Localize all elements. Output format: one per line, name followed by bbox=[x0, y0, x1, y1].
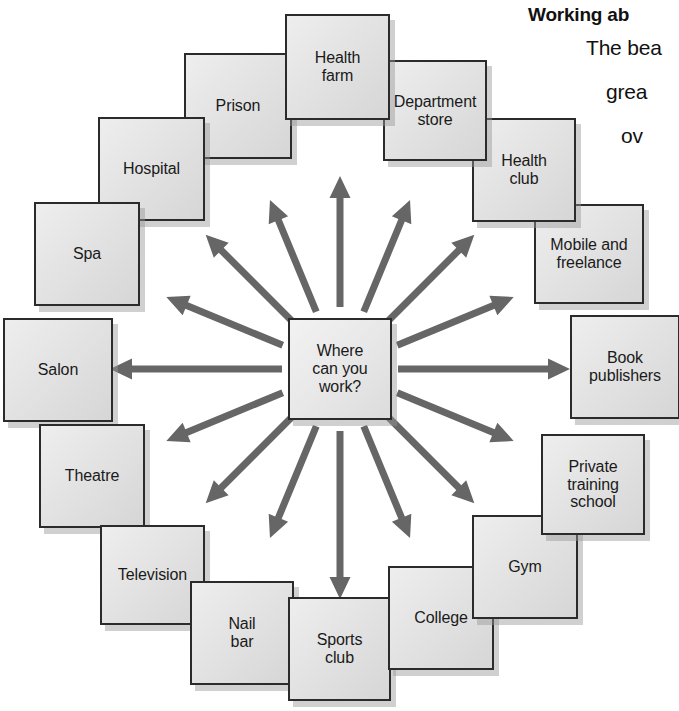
node-label: Theatre bbox=[65, 467, 119, 485]
center-node[interactable]: Where can you work? bbox=[288, 318, 392, 420]
side-body-line-3: ov bbox=[621, 124, 643, 148]
side-body-line-2: grea bbox=[606, 80, 647, 104]
node-label: College bbox=[414, 609, 468, 627]
diagram-canvas: Health farmDepartment storeHealth clubMo… bbox=[0, 0, 679, 711]
radial-arrow bbox=[166, 296, 284, 349]
node-salon[interactable]: Salon bbox=[3, 318, 113, 422]
radial-arrow bbox=[269, 425, 320, 538]
radial-arrow bbox=[330, 176, 351, 307]
node-label: Private training school bbox=[567, 458, 619, 512]
node-label: Hospital bbox=[123, 160, 180, 178]
node-label: Book publishers bbox=[589, 349, 661, 385]
radial-arrow bbox=[396, 296, 514, 349]
side-heading: Working ab bbox=[528, 4, 629, 26]
radial-arrow bbox=[386, 235, 475, 324]
node-label: Department store bbox=[394, 93, 477, 129]
node-label: Mobile and freelance bbox=[550, 236, 627, 272]
radial-arrow bbox=[206, 235, 295, 324]
node-label: Where can you work? bbox=[312, 342, 367, 396]
node-nail-bar[interactable]: Nail bar bbox=[190, 581, 294, 685]
node-label: Gym bbox=[508, 558, 541, 576]
node-theatre[interactable]: Theatre bbox=[39, 424, 145, 528]
node-department-store[interactable]: Department store bbox=[383, 60, 487, 161]
node-label: Health farm bbox=[315, 49, 361, 85]
radial-arrow bbox=[206, 415, 295, 504]
radial-arrow bbox=[110, 359, 282, 380]
side-body-line-1: The bea bbox=[586, 36, 662, 60]
node-label: Television bbox=[118, 566, 187, 584]
radial-arrow bbox=[360, 425, 411, 538]
node-label: Salon bbox=[38, 361, 78, 379]
node-private-training-school[interactable]: Private training school bbox=[541, 434, 645, 535]
node-book-publishers[interactable]: Book publishers bbox=[570, 315, 679, 419]
radial-arrow bbox=[269, 200, 320, 313]
node-label: Health club bbox=[501, 152, 547, 188]
node-spa[interactable]: Spa bbox=[34, 202, 140, 306]
node-health-club[interactable]: Health club bbox=[472, 118, 576, 222]
radial-arrow bbox=[386, 415, 475, 504]
radial-arrow bbox=[398, 359, 570, 380]
node-label: Prison bbox=[216, 97, 261, 115]
node-health-farm[interactable]: Health farm bbox=[285, 14, 390, 120]
node-label: Spa bbox=[73, 245, 101, 263]
radial-arrow bbox=[330, 431, 351, 599]
node-label: Sports club bbox=[317, 631, 363, 667]
radial-arrow bbox=[360, 200, 411, 313]
node-sports-club[interactable]: Sports club bbox=[288, 597, 391, 701]
node-label: Nail bar bbox=[228, 615, 255, 651]
radial-arrow bbox=[166, 389, 284, 442]
radial-arrow bbox=[396, 389, 514, 442]
